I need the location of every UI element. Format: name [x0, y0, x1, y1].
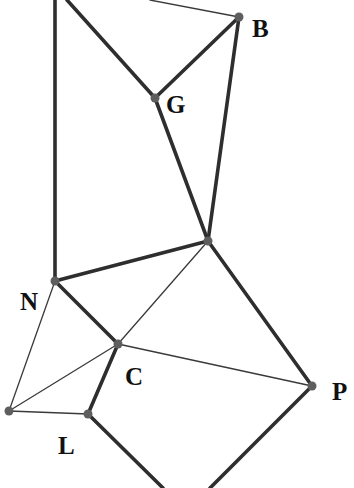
vertex-label-P: P	[332, 378, 347, 405]
edge-L-D1	[88, 414, 163, 488]
edge-K-C	[9, 344, 118, 411]
edge-B-M	[208, 17, 239, 241]
edge-P-D2	[210, 386, 312, 488]
edge-K-L	[9, 411, 88, 414]
vertex-M	[204, 237, 213, 246]
edge-T3-B	[150, 0, 239, 17]
vertex-label-G: G	[166, 91, 185, 118]
edge-G-M	[155, 98, 208, 241]
vertex-labels: BGNCPL	[20, 15, 347, 459]
vertex-K	[5, 407, 14, 416]
edge-C-M	[118, 241, 208, 344]
vertex-N	[51, 277, 60, 286]
thick-edges	[55, 0, 312, 488]
vertex-B	[235, 13, 244, 22]
vertices	[5, 13, 317, 419]
vertex-label-C: C	[125, 363, 143, 390]
edge-M-P	[208, 241, 312, 386]
vertex-label-N: N	[20, 288, 38, 315]
edge-N-M	[55, 241, 208, 281]
edge-N-C	[55, 281, 118, 344]
edge-T2-G	[67, 0, 155, 98]
vertex-C	[114, 340, 123, 349]
vertex-L	[84, 410, 93, 419]
vertex-label-L: L	[58, 432, 75, 459]
vertex-P	[308, 382, 317, 391]
vertex-G	[151, 94, 160, 103]
edge-G-B	[155, 17, 239, 98]
edge-C-L	[88, 344, 118, 414]
vertex-label-B: B	[252, 15, 269, 42]
edge-C-P	[118, 344, 312, 386]
geometric-diagram: BGNCPL	[0, 0, 354, 488]
